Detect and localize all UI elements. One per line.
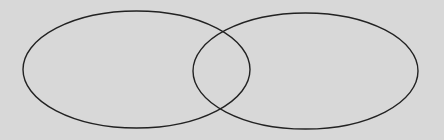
right-set-ellipse <box>193 13 418 129</box>
venn-diagram <box>0 0 444 140</box>
left-set-ellipse <box>23 11 250 128</box>
